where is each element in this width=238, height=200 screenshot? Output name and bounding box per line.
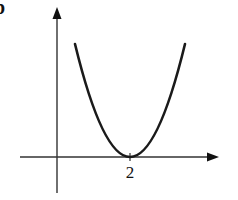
corner-label: b	[0, 0, 5, 18]
y-axis-arrow-icon	[53, 7, 62, 19]
x-axis-arrow-icon	[207, 153, 219, 162]
parabola-curve	[75, 44, 185, 157]
x-tick-label: 2	[126, 163, 135, 182]
parabola-diagram: b 2	[0, 0, 238, 200]
